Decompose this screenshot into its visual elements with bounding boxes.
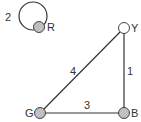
edge-g-y <box>40 28 124 113</box>
node-r-label: R <box>47 21 55 33</box>
node-b-label: B <box>131 107 138 119</box>
node-g-label: G <box>25 107 34 119</box>
loop-weight-label: 2 <box>5 11 11 23</box>
node-r <box>34 22 45 33</box>
node-g <box>35 108 46 119</box>
node-y-label: Y <box>131 22 139 34</box>
edge-yb-weight-label: 1 <box>127 65 133 77</box>
edge-gy-weight-label: 4 <box>70 65 76 77</box>
graph-diagram: 2 R Y B G 1 3 4 <box>0 0 141 122</box>
node-y <box>119 23 130 34</box>
node-b <box>119 108 130 119</box>
edge-gb-weight-label: 3 <box>84 99 90 111</box>
